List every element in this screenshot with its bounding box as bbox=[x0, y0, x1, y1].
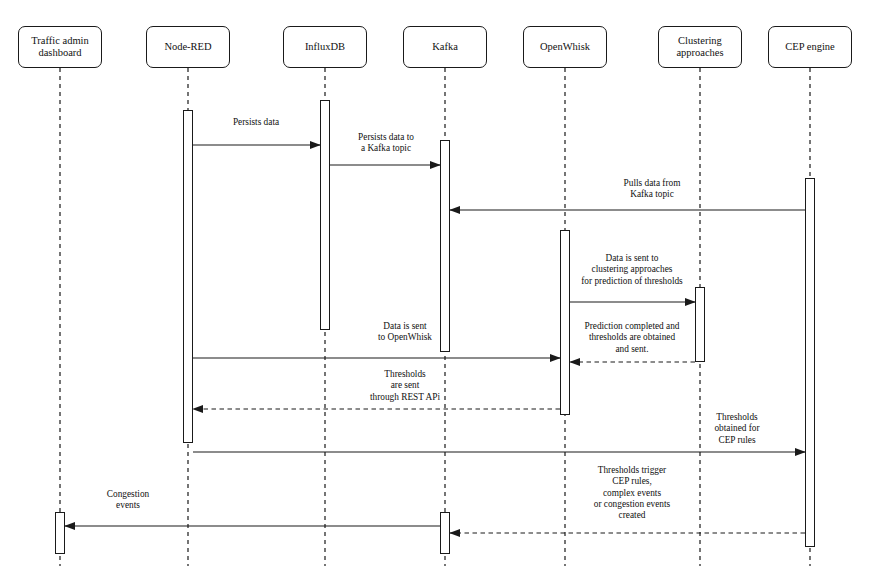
act-clustering bbox=[695, 287, 705, 362]
participant-label: InfluxDB bbox=[302, 41, 348, 53]
participant-nodered[interactable]: Node-RED bbox=[146, 26, 230, 68]
participant-influxdb[interactable]: InfluxDB bbox=[283, 26, 367, 68]
act-dashboard-bottom bbox=[55, 512, 65, 554]
act-openwhisk bbox=[560, 230, 570, 415]
act-influxdb bbox=[320, 100, 330, 330]
participant-kafka[interactable]: Kafka bbox=[403, 26, 487, 68]
participant-label: CEP engine bbox=[782, 41, 837, 53]
participant-cep[interactable]: CEP engine bbox=[768, 26, 852, 68]
participant-label: Node-RED bbox=[161, 41, 214, 53]
participant-dashboard[interactable]: Traffic admin dashboard bbox=[18, 26, 102, 68]
act-kafka bbox=[440, 140, 450, 352]
participant-label: Clustering approaches bbox=[673, 35, 726, 60]
participant-label: Traffic admin dashboard bbox=[28, 35, 91, 60]
participant-clustering[interactable]: Clustering approaches bbox=[658, 26, 742, 68]
participant-label: OpenWhisk bbox=[537, 41, 593, 53]
sequence-diagram: Traffic admin dashboardNode-REDInfluxDBK… bbox=[0, 0, 885, 584]
participant-openwhisk[interactable]: OpenWhisk bbox=[523, 26, 607, 68]
messages-layer bbox=[65, 145, 805, 533]
act-kafka-bottom bbox=[440, 512, 450, 554]
participant-label: Kafka bbox=[429, 41, 461, 53]
act-nodered bbox=[183, 110, 193, 443]
act-cep bbox=[805, 178, 815, 547]
